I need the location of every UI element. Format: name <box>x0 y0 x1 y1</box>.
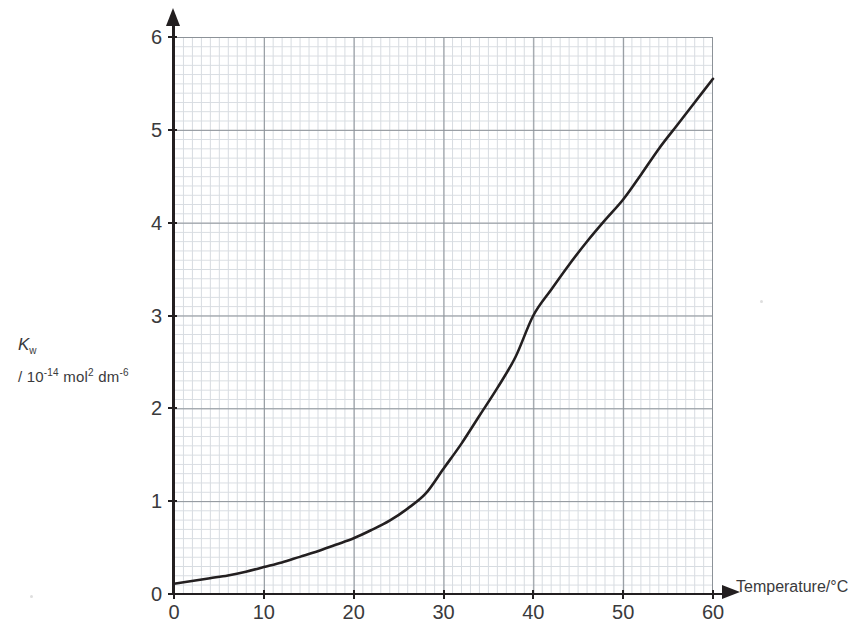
x-tick <box>443 590 445 599</box>
y-axis-symbol-subscript: w <box>29 345 36 356</box>
y-units-exponent-6: -6 <box>119 367 128 378</box>
kw-temperature-graph: 0123456 0102030405060 Kw / 10-14 mol2 dm… <box>0 0 855 633</box>
x-tick <box>263 590 265 599</box>
x-tick <box>173 590 175 599</box>
x-tick-label: 10 <box>244 602 284 622</box>
kw-curve <box>174 79 713 584</box>
y-units-dm: dm <box>94 368 120 385</box>
y-units-exponent-14: -14 <box>44 367 59 378</box>
y-tick <box>168 500 177 502</box>
y-tick-label: 0 <box>136 584 162 604</box>
x-tick <box>532 590 534 599</box>
y-axis-title: Kw / 10-14 mol2 dm-6 <box>18 334 129 388</box>
y-units-prefix: / 10 <box>18 368 44 385</box>
x-tick-label: 60 <box>693 602 733 622</box>
x-tick <box>622 590 624 599</box>
x-tick-label: 0 <box>154 602 194 622</box>
y-tick <box>168 36 177 38</box>
y-axis-symbol: Kw <box>18 334 129 362</box>
y-units-mol: mol <box>59 368 88 385</box>
scan-speckle <box>30 595 33 598</box>
x-tick-label: 40 <box>513 602 553 622</box>
y-axis-symbol-letter: K <box>18 335 29 354</box>
y-tick <box>168 315 177 317</box>
y-tick <box>168 222 177 224</box>
plot-area <box>174 37 713 594</box>
x-tick <box>353 590 355 599</box>
y-tick-label: 6 <box>136 27 162 47</box>
x-tick-label: 50 <box>603 602 643 622</box>
x-axis-line <box>174 593 730 596</box>
scan-speckle <box>760 300 763 303</box>
x-tick-label: 20 <box>334 602 374 622</box>
y-axis-units: / 10-14 mol2 dm-6 <box>18 362 129 388</box>
y-axis-arrow-icon <box>166 8 180 26</box>
y-tick-label: 5 <box>136 120 162 140</box>
y-tick-label: 3 <box>136 306 162 326</box>
x-axis-title: Temperature/°C <box>736 578 848 596</box>
y-tick-label: 4 <box>136 213 162 233</box>
y-tick-label: 2 <box>136 398 162 418</box>
y-tick <box>168 407 177 409</box>
x-tick-label: 30 <box>424 602 464 622</box>
y-tick-label: 1 <box>136 491 162 511</box>
y-axis-line <box>172 24 175 595</box>
x-tick <box>712 590 714 599</box>
y-tick <box>168 129 177 131</box>
data-curve-layer <box>174 37 713 594</box>
